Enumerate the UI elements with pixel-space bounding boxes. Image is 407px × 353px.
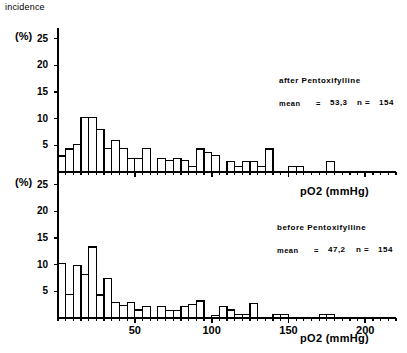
histogram-bar xyxy=(158,307,166,318)
y-tick-label-bottom-10: 10 xyxy=(22,259,48,270)
histogram-bar xyxy=(242,315,250,318)
histogram-bar xyxy=(112,303,120,318)
histogram-bar xyxy=(66,149,74,172)
histogram-bar xyxy=(227,161,235,172)
histogram-bar xyxy=(181,161,189,172)
histogram-bar xyxy=(96,129,104,172)
histogram-bar xyxy=(235,315,243,318)
histogram-bar xyxy=(89,247,97,318)
histogram-bar xyxy=(112,141,120,172)
histogram-bar xyxy=(104,279,112,318)
histogram-bar xyxy=(250,161,258,172)
histogram-bar xyxy=(189,167,197,172)
histogram-bar xyxy=(189,304,197,318)
histogram-bar xyxy=(96,295,104,318)
histogram-bar xyxy=(158,159,166,172)
histogram-bar xyxy=(258,167,266,172)
histogram-bar xyxy=(66,295,74,318)
panel-bottom xyxy=(54,174,396,323)
histogram-bar xyxy=(73,145,81,172)
histogram-bar xyxy=(327,315,335,318)
histogram-bar xyxy=(212,315,220,318)
x-tick-label-200: 200 xyxy=(348,324,382,336)
y-tick-label-bottom-5: 5 xyxy=(22,285,48,296)
histogram-bar xyxy=(327,161,335,172)
histogram-bar xyxy=(81,274,89,318)
histogram-bar xyxy=(58,264,66,318)
x-tick-label-100: 100 xyxy=(195,324,229,336)
x-tick-label-50: 50 xyxy=(118,324,152,336)
histogram-bar xyxy=(319,315,327,318)
histogram-bar xyxy=(273,314,281,318)
panel-top xyxy=(54,28,396,177)
histogram-bar xyxy=(212,155,220,172)
histogram-bar xyxy=(166,161,174,172)
x-tick-label-150: 150 xyxy=(271,324,305,336)
histogram-bar xyxy=(288,167,296,172)
histogram-bar xyxy=(135,310,143,318)
histogram-bar xyxy=(89,118,97,172)
histogram-bar xyxy=(135,158,143,172)
histogram-bar xyxy=(127,158,135,172)
histogram-bar xyxy=(104,149,112,172)
histogram-bar xyxy=(73,265,81,318)
y-tick-label-top-25: 25 xyxy=(22,33,48,44)
y-tick-label-bottom-20: 20 xyxy=(22,205,48,216)
histogram-bar xyxy=(143,149,151,172)
histogram-bar xyxy=(143,306,151,318)
y-tick-label-top-10: 10 xyxy=(22,113,48,124)
histogram-bar xyxy=(242,161,250,172)
histogram-bar xyxy=(265,149,273,172)
histogram-bar xyxy=(227,310,235,318)
histogram-bar xyxy=(296,167,304,172)
histogram-bar xyxy=(196,301,204,318)
histogram-bar xyxy=(119,149,127,172)
histogram-bar xyxy=(281,314,289,318)
histogram-bar xyxy=(173,311,181,318)
histogram-bar xyxy=(127,303,135,318)
y-tick-label-bottom-25: 25 xyxy=(22,179,48,190)
y-tick-label-top-5: 5 xyxy=(22,139,48,150)
histogram-bar xyxy=(204,152,212,172)
y-tick-label-bottom-15: 15 xyxy=(22,232,48,243)
histogram-bar xyxy=(181,306,189,318)
y-tick-label-top-20: 20 xyxy=(22,59,48,70)
figure-root: incidence (%) (%) pO2 (mmHg) pO2 (mmHg) … xyxy=(0,0,407,353)
histogram-bar xyxy=(235,167,243,172)
histogram-bar xyxy=(173,159,181,172)
y-tick-label-top-15: 15 xyxy=(22,86,48,97)
histogram-bar xyxy=(196,149,204,172)
histogram-bar xyxy=(219,307,227,318)
histogram-bar xyxy=(58,156,66,172)
histogram-plot-canvas xyxy=(0,0,407,353)
histogram-bar xyxy=(119,305,127,318)
histogram-bar xyxy=(81,118,89,172)
histogram-bar xyxy=(166,311,174,318)
histogram-bar xyxy=(250,304,258,318)
